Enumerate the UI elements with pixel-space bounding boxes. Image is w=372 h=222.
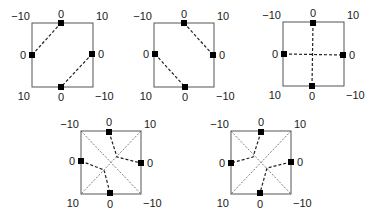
square-marker xyxy=(228,160,234,166)
edge-label-right: 0 xyxy=(219,49,225,61)
square-marker xyxy=(29,52,35,58)
edge-label-top: 0 xyxy=(258,116,264,128)
square-marker xyxy=(310,20,316,26)
panel-5: −101010−100000 xyxy=(210,116,311,210)
square-marker xyxy=(257,190,263,196)
diagram-canvas: −101010−100000−101010−100000−101010−1000… xyxy=(0,0,372,222)
panel-box xyxy=(283,22,344,86)
edge-label-left: 0 xyxy=(20,49,26,61)
panel-box xyxy=(32,23,93,87)
corner-label-top-right: 10 xyxy=(217,10,229,22)
square-marker xyxy=(210,52,216,58)
square-marker xyxy=(182,84,188,90)
edge-label-right: 0 xyxy=(147,157,153,169)
square-marker xyxy=(138,160,144,166)
corner-label-top-right: 10 xyxy=(294,118,306,130)
edge-label-left: 0 xyxy=(69,155,75,167)
square-marker xyxy=(309,83,315,89)
corner-label-top-left: −10 xyxy=(60,118,79,130)
square-marker xyxy=(258,129,264,135)
edge-label-left: 0 xyxy=(272,48,278,60)
dashed-connection xyxy=(284,54,343,55)
panel-4: −101010−100000 xyxy=(60,116,161,210)
square-marker xyxy=(152,51,158,57)
edge-label-top: 0 xyxy=(181,8,187,20)
edge-label-top: 0 xyxy=(58,8,64,20)
corner-label-bottom-right: −10 xyxy=(293,197,312,209)
square-marker xyxy=(340,52,346,58)
dashed-connection xyxy=(32,23,61,55)
dashed-connection xyxy=(81,161,110,193)
corner-label-bottom-left: 10 xyxy=(140,90,152,102)
edge-label-left: 0 xyxy=(219,157,225,169)
edge-label-top: 0 xyxy=(310,7,316,19)
corner-label-top-right: 10 xyxy=(144,118,156,130)
edge-label-right: 0 xyxy=(98,48,104,60)
edge-label-left: 0 xyxy=(143,48,149,60)
corner-label-bottom-left: 10 xyxy=(67,197,79,209)
panel-2: −101010−100000 xyxy=(133,8,234,103)
dashed-connection xyxy=(155,54,185,87)
corner-label-bottom-right: −10 xyxy=(216,90,235,102)
corner-label-bottom-left: 10 xyxy=(217,197,229,209)
square-marker xyxy=(106,129,112,135)
corner-label-bottom-right: −10 xyxy=(95,90,114,102)
panel-box xyxy=(154,23,214,87)
square-marker xyxy=(181,20,187,26)
square-marker xyxy=(58,84,64,90)
edge-label-bottom: 0 xyxy=(107,198,113,210)
dashed-connection xyxy=(231,132,261,163)
corner-label-bottom-left: 10 xyxy=(18,90,30,102)
corner-label-top-right: 10 xyxy=(347,9,359,21)
edge-label-top: 0 xyxy=(106,116,112,128)
dashed-connection xyxy=(312,23,313,86)
square-marker xyxy=(288,159,294,165)
square-marker xyxy=(89,51,95,57)
corner-label-top-left: −10 xyxy=(262,9,281,21)
dashed-connection xyxy=(61,54,92,87)
dashed-connection xyxy=(184,23,213,55)
corner-label-top-left: −10 xyxy=(11,10,30,22)
corner-label-top-left: −10 xyxy=(210,118,229,130)
edge-label-bottom: 0 xyxy=(182,91,188,103)
corner-label-bottom-right: −10 xyxy=(346,89,365,101)
corner-label-top-right: 10 xyxy=(96,10,108,22)
corner-label-top-left: −10 xyxy=(133,10,152,22)
square-marker xyxy=(107,190,113,196)
edge-label-bottom: 0 xyxy=(257,198,263,210)
panel-3: −101010−100000 xyxy=(262,7,364,102)
panel-1: −101010−100000 xyxy=(11,8,113,103)
corner-label-bottom-right: −10 xyxy=(143,197,162,209)
edge-label-right: 0 xyxy=(297,156,303,168)
corner-label-bottom-left: 10 xyxy=(269,89,281,101)
edge-label-bottom: 0 xyxy=(309,90,315,102)
square-marker xyxy=(58,20,64,26)
square-marker xyxy=(78,158,84,164)
edge-label-right: 0 xyxy=(349,49,355,61)
square-marker xyxy=(281,51,287,57)
edge-label-bottom: 0 xyxy=(58,91,64,103)
